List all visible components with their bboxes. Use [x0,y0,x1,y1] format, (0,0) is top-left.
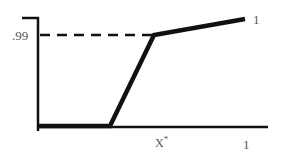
chart: .99 1 X* 1 [0,0,281,158]
end-value-label: 1 [253,12,260,27]
x-end-label: 1 [243,137,250,152]
series-line [38,19,245,126]
y-tick-label: .99 [12,28,28,43]
x-star-label: X* [155,134,169,150]
